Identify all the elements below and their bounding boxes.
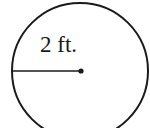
circle-outline: [12, 3, 148, 128]
circle-graphic: [0, 0, 150, 128]
radius-label: 2 ft.: [40, 33, 77, 56]
center-point: [78, 68, 83, 73]
circle-diagram: 2 ft.: [0, 0, 150, 128]
